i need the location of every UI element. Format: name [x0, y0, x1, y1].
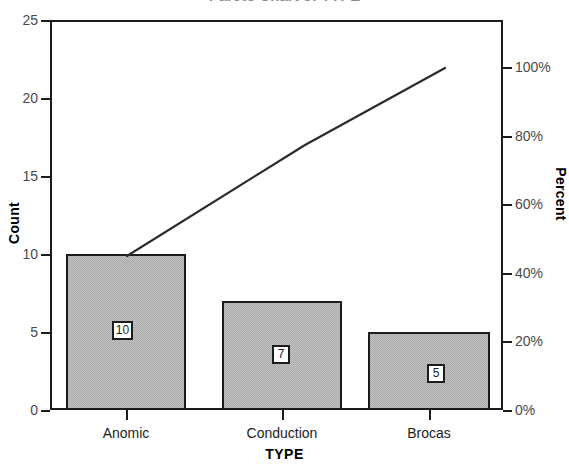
bar-value-label-anomic: 10: [112, 321, 133, 340]
xtick-label-brocas: Brocas: [359, 425, 499, 441]
xtick-label-anomic: Anomic: [56, 425, 196, 441]
chart-title-clipped: Pareto Chart of TYPE: [0, 0, 569, 13]
bar-value-label-brocas: 5: [427, 364, 445, 383]
y2tick-label-40: 40%: [515, 265, 543, 281]
x-axis-title: TYPE: [0, 446, 569, 462]
xtick-mark-anomic: [126, 410, 128, 420]
y2tick-mark-40: [503, 273, 512, 275]
ytick-mark-25: [41, 20, 50, 22]
ytick-label-5: 5: [0, 324, 38, 340]
bar-value-label-conduction: 7: [272, 345, 290, 364]
y2tick-mark-100: [503, 67, 512, 69]
ytick-mark-15: [41, 176, 50, 178]
ytick-mark-0: [41, 410, 50, 412]
y2tick-label-20: 20%: [515, 333, 543, 349]
y2tick-label-100: 100%: [515, 59, 551, 75]
y2tick-label-0: 0%: [515, 402, 535, 418]
xtick-mark-conduction: [282, 410, 284, 420]
y2tick-mark-0: [503, 410, 512, 412]
y-axis-title: Count: [6, 193, 22, 253]
xtick-label-conduction: Conduction: [212, 425, 352, 441]
ytick-label-15: 15: [0, 168, 38, 184]
ytick-label-25: 25: [0, 12, 38, 28]
y2tick-label-60: 60%: [515, 196, 543, 212]
ytick-mark-20: [41, 98, 50, 100]
xtick-mark-brocas: [429, 410, 431, 420]
y2tick-mark-80: [503, 136, 512, 138]
ytick-mark-10: [41, 254, 50, 256]
ytick-mark-5: [41, 332, 50, 334]
ytick-label-20: 20: [0, 90, 38, 106]
y2-axis-title: Percent: [553, 159, 569, 229]
y2tick-mark-60: [503, 204, 512, 206]
chart-title: Pareto Chart of TYPE: [0, 0, 569, 4]
y2tick-mark-20: [503, 341, 512, 343]
pareto-chart: Pareto Chart of TYPE 25 20 15 10 5 0 Cou…: [0, 0, 569, 474]
ytick-label-0: 0: [0, 402, 38, 418]
y2tick-label-80: 80%: [515, 128, 543, 144]
